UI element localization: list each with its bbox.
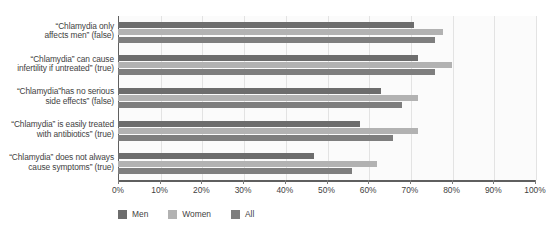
legend-item-men[interactable]: Men [118,209,148,219]
bar-men [118,22,414,28]
category-label-line: cause symptoms” (true) [2,163,114,173]
bar-men [118,153,314,159]
bar-all [118,37,435,43]
y-axis-category-label: “Chlamydia” is easily treatedwith antibi… [2,120,114,139]
bar-women [118,128,418,134]
bar-men [118,121,360,127]
x-axis-tick-label: 10% [140,185,180,195]
x-axis-tick-mark [201,180,202,184]
legend-label: Men [132,209,148,219]
x-axis-tick-label: 0% [98,185,138,195]
bar-women [118,29,443,35]
y-axis-category-label: “Chlamydia”has no seriousside effects” (… [2,87,114,106]
x-axis-tick-mark [535,180,536,184]
x-axis-tick-mark [160,180,161,184]
category-label-line: side effects” (false) [2,97,114,107]
bar-group [118,121,535,141]
x-axis-tick-label: 90% [473,185,513,195]
legend-swatch-icon [118,210,127,219]
bar-all [118,168,352,174]
chart-legend: MenWomenAll [118,207,254,221]
bar-men [118,55,418,61]
x-axis-tick-label: 80% [432,185,472,195]
legend-swatch-icon [231,210,240,219]
legend-swatch-icon [168,210,177,219]
x-axis-tick-label: 70% [390,185,430,195]
x-axis-tick-label: 20% [181,185,221,195]
x-axis-tick-mark [285,180,286,184]
bar-group [118,55,535,75]
category-label-line: infertility if untreated” (true) [2,64,114,74]
x-axis-tick-mark [327,180,328,184]
x-axis-tick-mark [410,180,411,184]
x-axis-tick-mark [368,180,369,184]
y-axis-category-label: “Chlamydia” does not alwayscause symptom… [2,153,114,172]
x-axis-tick-mark [452,180,453,184]
bar-all [118,135,393,141]
bar-all [118,102,402,108]
x-axis-tick-mark [493,180,494,184]
y-axis-category-label: “Chlamydia onlyaffects men” (false) [2,22,114,41]
y-axis-category-labels: “Chlamydia onlyaffects men” (false)“Chla… [0,0,114,180]
y-axis-category-label: “Chlamydia” can causeinfertility if untr… [2,55,114,74]
category-label-line: affects men” (false) [2,31,114,41]
legend-item-women[interactable]: Women [168,209,211,219]
x-axis-tick-label: 100% [515,185,553,195]
bar-all [118,69,435,75]
gridline [536,16,537,180]
bar-chart: “Chlamydia onlyaffects men” (false)“Chla… [0,0,553,225]
x-axis-tick-label: 60% [348,185,388,195]
x-axis-tick-label: 50% [307,185,347,195]
bar-men [118,88,381,94]
bar-women [118,161,377,167]
x-axis-tick-label: 30% [223,185,263,195]
bar-women [118,95,418,101]
x-axis-tick-label: 40% [265,185,305,195]
legend-label: All [245,209,254,219]
bar-women [118,62,452,68]
x-axis-tick-mark [118,180,119,184]
bar-group [118,22,535,42]
category-label-line: with antibiotics” (true) [2,130,114,140]
x-axis-tick-mark [243,180,244,184]
bar-group [118,153,535,173]
legend-item-all[interactable]: All [231,209,254,219]
legend-label: Women [182,209,211,219]
bar-group [118,88,535,108]
